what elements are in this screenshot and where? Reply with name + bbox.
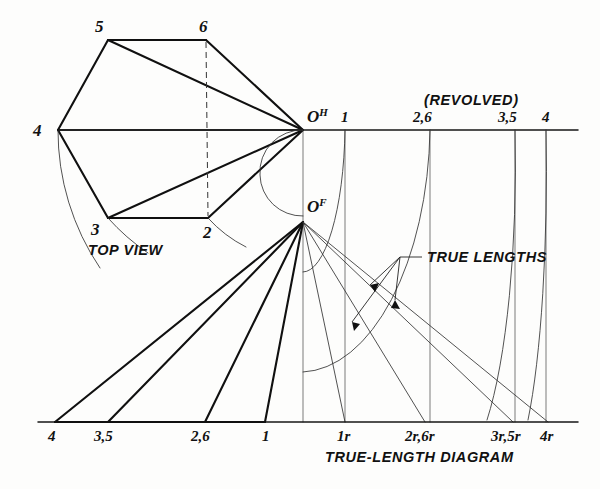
axis-tick-label-2-6: 2,6 <box>412 109 432 125</box>
baseline-label-1r: 1r <box>337 428 351 444</box>
axis-tick-label-4: 4 <box>541 109 550 125</box>
top-view-edge-6-apex <box>206 40 303 130</box>
baseline-label-2-6: 2,6 <box>190 428 210 444</box>
top-view-label: TOP VIEW <box>88 242 164 258</box>
arc-revolve-4 <box>528 130 546 420</box>
vertex-label-4: 4 <box>32 121 42 140</box>
axis-tick-label-3-5: 3,5 <box>497 109 517 125</box>
engineering-drawing-canvas: 5 6 4 3 2 OH OF 1 2,6 3,5 4 (REVOLVED) T… <box>0 0 600 489</box>
vertex-label-2: 2 <box>202 223 212 242</box>
baseline-label-1: 1 <box>262 428 270 444</box>
front-element-O-26 <box>205 222 303 422</box>
baseline-label-2r-6r: 2r,6r <box>404 428 435 444</box>
arc-revolve-2-6 <box>303 130 430 372</box>
revolution-arc-2-6 <box>208 218 246 247</box>
apex-label-of: OF <box>307 196 327 216</box>
revolved-axis-group <box>58 130 578 422</box>
top-view-hidden-edge-6-2 <box>206 42 208 216</box>
axis-tick-label-1: 1 <box>341 109 349 125</box>
top-view-edge-3-4 <box>58 130 108 218</box>
true-lengths-arrow-branch-left <box>370 257 400 285</box>
arc-revolve-small-apex <box>260 130 303 216</box>
vertex-label-5: 5 <box>95 17 104 36</box>
true-length-diagram-figure: 5 6 4 3 2 OH OF 1 2,6 3,5 4 (REVOLVED) T… <box>0 0 600 489</box>
true-lengths-arrowhead-3 <box>352 322 360 331</box>
baseline-label-3r-5r: 3r,5r <box>490 428 521 444</box>
baseline-label-3-5: 3,5 <box>93 428 113 444</box>
vertex-label-3: 3 <box>90 220 100 239</box>
figure-caption: TRUE-LENGTH DIAGRAM <box>325 449 514 465</box>
true-lengths-arrowhead-2 <box>391 300 400 309</box>
front-element-O-1 <box>265 222 303 422</box>
baseline-label-4r: 4r <box>539 428 554 444</box>
apex-label-oh: OH <box>307 106 328 126</box>
true-lengths-label: TRUE LENGTHS <box>427 249 547 265</box>
revolved-label: (REVOLVED) <box>424 92 519 108</box>
top-view-radial-apex-5 <box>108 40 303 130</box>
arc-revolve-3-5 <box>487 130 515 420</box>
front-true-length-O-2r6r <box>303 222 425 422</box>
vertex-label-6: 6 <box>199 17 208 36</box>
top-view-edge-4-5 <box>58 40 108 130</box>
baseline-label-4: 4 <box>47 428 56 444</box>
top-view-edge-2-apex <box>208 130 303 218</box>
